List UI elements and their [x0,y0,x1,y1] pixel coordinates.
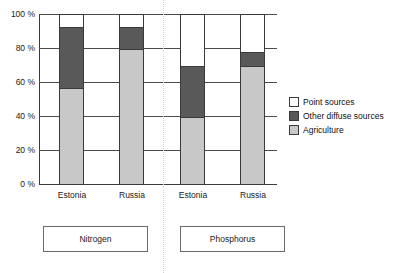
legend-swatch-point-sources-icon [289,97,299,107]
legend: Point sources Other diffuse sources Agri… [289,95,411,137]
legend-swatch-agriculture-icon [289,125,299,135]
bar-segment-point-sources [181,15,204,66]
bar-segment-point-sources [241,15,264,52]
legend-swatch-other-diffuse-sources-icon [289,111,299,121]
legend-item-agriculture[interactable]: Agriculture [289,123,411,136]
bar-segment-agriculture [120,49,143,185]
legend-label-point-sources: Point sources [303,97,355,107]
legend-label-agriculture: Agriculture [303,125,344,135]
bar-segment-other-diffuse-sources [60,27,83,88]
bar-segment-agriculture [60,88,83,185]
y-tick-100: 100 % [1,10,35,19]
group-divider-line [163,0,164,273]
plot-area [39,14,277,185]
y-axis-line [39,14,40,185]
bar-phosphorus-russia[interactable] [240,14,265,185]
x-tick-nitrogen-russia: Russia [97,190,167,200]
bar-segment-other-diffuse-sources [181,66,204,117]
bar-nitrogen-estonia[interactable] [59,14,84,185]
bar-segment-other-diffuse-sources [120,27,143,49]
y-tick-60: 60 % [1,78,35,87]
x-axis-line [39,184,277,185]
x-axis-tick-labels: Estonia Russia Estonia Russia [0,190,290,204]
bar-phosphorus-estonia[interactable] [180,14,205,185]
legend-item-other-diffuse-sources[interactable]: Other diffuse sources [289,109,411,122]
x-tick-phosphorus-russia: Russia [218,190,288,200]
legend-label-other-diffuse-sources: Other diffuse sources [303,111,384,121]
y-tick-40: 40 % [1,112,35,121]
bar-nitrogen-russia[interactable] [119,14,144,185]
legend-item-point-sources[interactable]: Point sources [289,95,411,108]
group-box-phosphorus: Phosphorus [180,226,285,252]
bar-segment-agriculture [241,66,264,185]
y-tick-0: 0 % [1,180,35,189]
bar-segment-agriculture [181,117,204,185]
bar-segment-point-sources [120,15,143,27]
group-box-nitrogen: Nitrogen [43,226,148,252]
y-tick-20: 20 % [1,146,35,155]
bar-segment-other-diffuse-sources [241,52,264,66]
y-tick-80: 80 % [1,44,35,53]
bar-segment-point-sources [60,15,83,27]
